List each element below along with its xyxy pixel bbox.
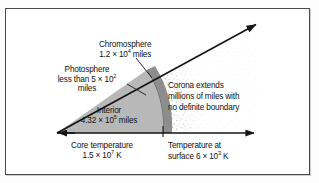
photosphere-name: Photosphere bbox=[65, 65, 110, 74]
corona-line-2: millions of miles with bbox=[168, 92, 239, 103]
core-temperature-value: 1.5 × 107 K bbox=[50, 151, 154, 161]
label-corona: Corona extends millions of miles with no… bbox=[168, 81, 239, 113]
photosphere-unit: miles bbox=[44, 84, 130, 94]
corona-line-1: Corona extends bbox=[168, 81, 239, 92]
figure-root: Chromosphere 1.2 × 104 miles Photosphere… bbox=[0, 0, 319, 183]
label-photosphere: Photosphere less than 5 × 102 miles bbox=[44, 65, 130, 94]
interior-name: Interior bbox=[97, 106, 121, 115]
label-chromosphere: Chromosphere 1.2 × 104 miles bbox=[99, 40, 151, 59]
corona-line-3: no definite boundary bbox=[168, 103, 239, 114]
interior-value: 4.32 × 105 miles bbox=[66, 116, 152, 126]
core-temperature-title: Core temperature bbox=[71, 141, 133, 150]
chromosphere-name: Chromosphere bbox=[99, 40, 151, 49]
photosphere-value: less than 5 × 102 bbox=[44, 75, 130, 85]
label-core-temperature: Core temperature 1.5 × 107 K bbox=[50, 141, 154, 160]
photosphere-exponent: 2 bbox=[113, 73, 116, 79]
surface-temperature-value: surface 6 × 103 K bbox=[168, 152, 228, 163]
label-surface-temperature: Temperature at surface 6 × 103 K bbox=[168, 141, 228, 163]
chromosphere-value: 1.2 × 104 miles bbox=[99, 50, 151, 60]
label-interior: Interior 4.32 × 105 miles bbox=[66, 106, 152, 125]
